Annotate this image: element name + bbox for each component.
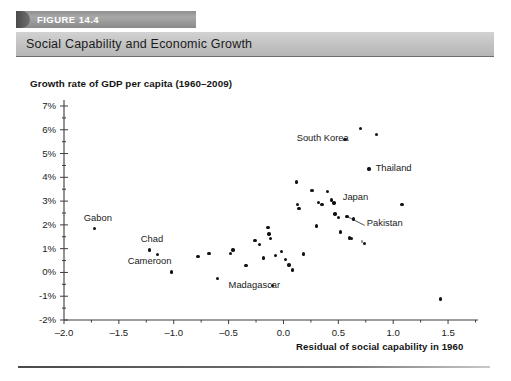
- y-tick-label: 5%: [26, 148, 56, 159]
- data-point: [332, 201, 335, 204]
- x-tick-label: –1.5: [99, 327, 139, 338]
- data-point: [231, 248, 234, 251]
- data-point: [207, 252, 210, 255]
- data-point: [253, 239, 256, 242]
- plot-axes: [0, 0, 511, 381]
- point-annotation: Thailand: [376, 162, 412, 173]
- y-tick-label: 4%: [26, 171, 56, 182]
- x-tick-label: 0.0: [263, 327, 303, 338]
- data-point: [320, 203, 323, 206]
- data-point: [400, 203, 403, 206]
- x-tick-label: 0.5: [318, 327, 358, 338]
- figure-page: FIGURE 14.4 Social Capability and Econom…: [0, 0, 511, 381]
- x-tick-label: –1.0: [154, 327, 194, 338]
- data-point: [148, 248, 151, 251]
- scatter-plot: 7%6%5%4%3%2%1%0%-1%-2%–2.0–1.5–1.0–0.50.…: [0, 0, 511, 381]
- point-annotation: Chad: [141, 233, 163, 244]
- footer-divider: [18, 366, 490, 368]
- data-point: [295, 180, 298, 183]
- data-point: [439, 297, 442, 300]
- y-tick-label: 2%: [26, 219, 56, 230]
- data-point: [170, 270, 173, 273]
- point-annotation: Cameroon: [128, 255, 172, 266]
- data-point: [258, 243, 261, 246]
- x-tick-label: 1.5: [428, 327, 468, 338]
- annotation-leader-line: [347, 217, 365, 226]
- point-annotation: South Korea: [297, 132, 349, 143]
- data-point: [352, 217, 355, 220]
- data-point: [267, 232, 270, 235]
- data-point: [339, 230, 342, 233]
- point-annotation: Japan: [343, 191, 369, 202]
- y-tick-label: 0%: [26, 266, 56, 277]
- point-annotation: Gabon: [84, 212, 112, 223]
- data-point: [287, 263, 290, 266]
- data-point: [297, 207, 300, 210]
- data-point: [291, 268, 294, 271]
- y-tick-label: -1%: [26, 290, 56, 301]
- y-tick-label: -2%: [26, 314, 56, 325]
- x-tick-label: 1.0: [373, 327, 413, 338]
- data-point: [310, 189, 313, 192]
- x-tick-label: –2.0: [44, 327, 84, 338]
- point-annotation: Pakistan: [367, 217, 403, 228]
- data-point: [302, 252, 305, 255]
- y-tick-label: 3%: [26, 195, 56, 206]
- data-point: [266, 226, 269, 229]
- y-tick-label: 1%: [26, 243, 56, 254]
- data-point: [345, 215, 348, 218]
- y-tick-label: 6%: [26, 124, 56, 135]
- point-annotation: Madagascar: [229, 279, 281, 290]
- data-point: [367, 167, 370, 170]
- y-tick-label: 7%: [26, 100, 56, 111]
- data-point: [315, 224, 318, 227]
- data-point: [333, 212, 336, 215]
- data-point: [196, 255, 199, 258]
- x-tick-label: –0.5: [209, 327, 249, 338]
